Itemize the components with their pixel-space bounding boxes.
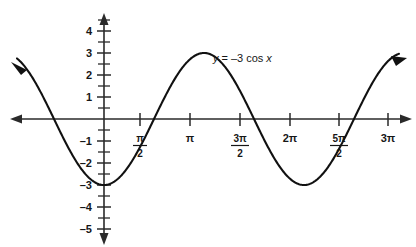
y-tick-label-neg1: –1	[80, 135, 92, 147]
curve-left-arrow-icon	[11, 62, 27, 75]
x-axis-left-arrow-icon	[10, 115, 22, 124]
y-tick-label-4: 4	[86, 25, 93, 37]
y-axis-up-arrow-icon	[100, 13, 109, 25]
y-axis-tick-labels: 4 3 2 1 –1 –2 –3 –4 –5	[80, 25, 93, 235]
x-tick-label-2pi: 2π	[283, 132, 298, 144]
curve-right-arrow-icon	[391, 56, 407, 66]
function-label-equals: =	[222, 52, 228, 64]
y-axis-down-arrow-icon	[100, 233, 109, 245]
x-axis-right-arrow-icon	[400, 115, 412, 124]
function-label-text: y=–3 cosx	[212, 52, 272, 64]
y-tick-label-3: 3	[86, 47, 92, 59]
x-axis-tick-labels: π 2 π 3π 2 2π 5π 2 3π	[133, 132, 396, 159]
x-tick-label-pi: π	[186, 132, 195, 144]
x-tick-label-3pi-over-2: 3π 2	[231, 133, 249, 159]
function-label-y: y	[212, 52, 220, 64]
function-label-rhs: –3 cos	[231, 52, 264, 64]
y-tick-label-1: 1	[86, 91, 92, 103]
y-tick-label-neg2: –2	[80, 157, 92, 169]
function-label-variable: x	[265, 52, 272, 64]
x-tick-3pi-over-2-denominator: 2	[237, 148, 243, 159]
x-tick-3pi-over-2-numerator: 3π	[233, 133, 247, 144]
y-tick-label-neg4: –4	[80, 201, 93, 213]
graph-figure: 4 3 2 1 –1 –2 –3 –4 –5 π 2 π 3π 2	[0, 0, 416, 247]
y-axis	[100, 13, 109, 245]
y-tick-label-neg5: –5	[80, 223, 92, 235]
function-label: y=–3 cosx	[212, 52, 272, 64]
y-tick-label-neg3: –3	[80, 179, 92, 191]
y-tick-label-2: 2	[86, 69, 92, 81]
x-tick-label-3pi: 3π	[381, 132, 396, 144]
